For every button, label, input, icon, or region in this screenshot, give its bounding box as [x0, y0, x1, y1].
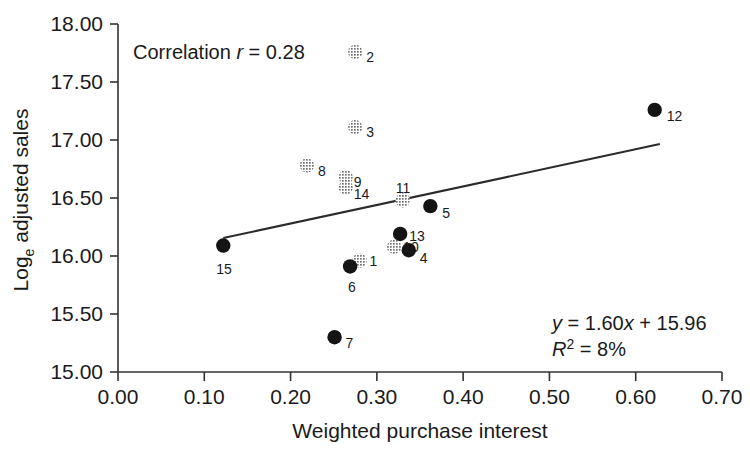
data-point-label: 15: [216, 261, 232, 277]
correlation-annotation: Correlation r = 0.28: [133, 41, 305, 63]
y-tick-label-group: 15.0015.5016.0016.5017.0017.5018.00: [50, 12, 103, 383]
data-point-marker: [327, 330, 341, 344]
x-tick-group: [118, 372, 722, 381]
data-point-label: 4: [420, 250, 428, 266]
data-point: 7: [327, 330, 353, 351]
data-point-label: 13: [409, 228, 425, 244]
data-point-marker: [647, 103, 661, 117]
y-tick-label: 16.00: [50, 244, 103, 267]
data-point-marker: [387, 240, 401, 254]
r-squared-annotation: R2 = 8%: [552, 336, 626, 360]
data-point: 2: [348, 45, 374, 65]
y-tick-label: 17.50: [50, 70, 103, 93]
data-point-label: 12: [667, 108, 683, 124]
data-points-group: 123456789101112131415: [216, 45, 682, 352]
data-point-marker: [423, 199, 437, 213]
data-point-marker: [348, 120, 362, 134]
y-tick-label: 18.00: [50, 12, 103, 35]
equation-annotation: y = 1.60x + 15.96: [550, 312, 707, 334]
x-tick-label: 0.10: [184, 385, 225, 408]
y-axis: 15.0015.5016.0016.5017.0017.5018.00: [50, 12, 118, 383]
y-tick-label: 16.50: [50, 186, 103, 209]
data-point-marker: [348, 45, 362, 59]
data-point-label: 8: [318, 163, 326, 179]
data-point: 12: [647, 103, 682, 124]
data-point-marker: [393, 227, 407, 241]
data-point-label: 2: [366, 49, 374, 65]
data-point: 5: [423, 199, 450, 221]
data-point: 6: [343, 259, 357, 295]
x-tick-label: 0.00: [98, 385, 139, 408]
data-point-label: 11: [396, 180, 411, 196]
data-point: 15: [216, 238, 232, 276]
y-tick-label: 17.00: [50, 128, 103, 151]
x-tick-label: 0.30: [356, 385, 397, 408]
x-tick-label: 0.50: [529, 385, 570, 408]
data-point-label: 6: [348, 279, 356, 295]
x-tick-label: 0.40: [443, 385, 484, 408]
regression-line: [223, 144, 660, 238]
plot-canvas: 15.0015.5016.0016.5017.0017.5018.00 0.00…: [0, 0, 750, 456]
data-point-label: 3: [366, 124, 374, 140]
x-tick-label-group: 0.000.100.200.300.400.500.600.70: [98, 385, 743, 408]
x-tick-label: 0.70: [702, 385, 743, 408]
x-tick-label: 0.20: [270, 385, 311, 408]
data-point-label: 5: [442, 205, 450, 221]
y-axis-title: Loge adjusted sales: [9, 109, 37, 292]
data-point-label: 1: [370, 253, 378, 269]
data-point-marker: [216, 238, 230, 252]
y-tick-label: 15.00: [50, 360, 103, 383]
data-point-marker: [300, 158, 314, 172]
data-point: 8: [300, 158, 326, 178]
data-point: 11: [396, 180, 411, 207]
data-point-label: 14: [354, 186, 370, 202]
scatter-plot-figure: 15.0015.5016.0016.5017.0017.5018.00 0.00…: [0, 0, 750, 456]
x-axis: 0.000.100.200.300.400.500.600.70: [98, 372, 743, 408]
data-point-marker: [339, 180, 353, 194]
data-point-marker: [343, 259, 357, 273]
y-tick-group: [110, 24, 118, 372]
y-tick-label: 15.50: [50, 302, 103, 325]
x-axis-title: Weighted purchase interest: [292, 419, 547, 442]
data-point-label: 7: [346, 335, 354, 351]
x-tick-label: 0.60: [615, 385, 656, 408]
data-point: 3: [348, 120, 374, 140]
